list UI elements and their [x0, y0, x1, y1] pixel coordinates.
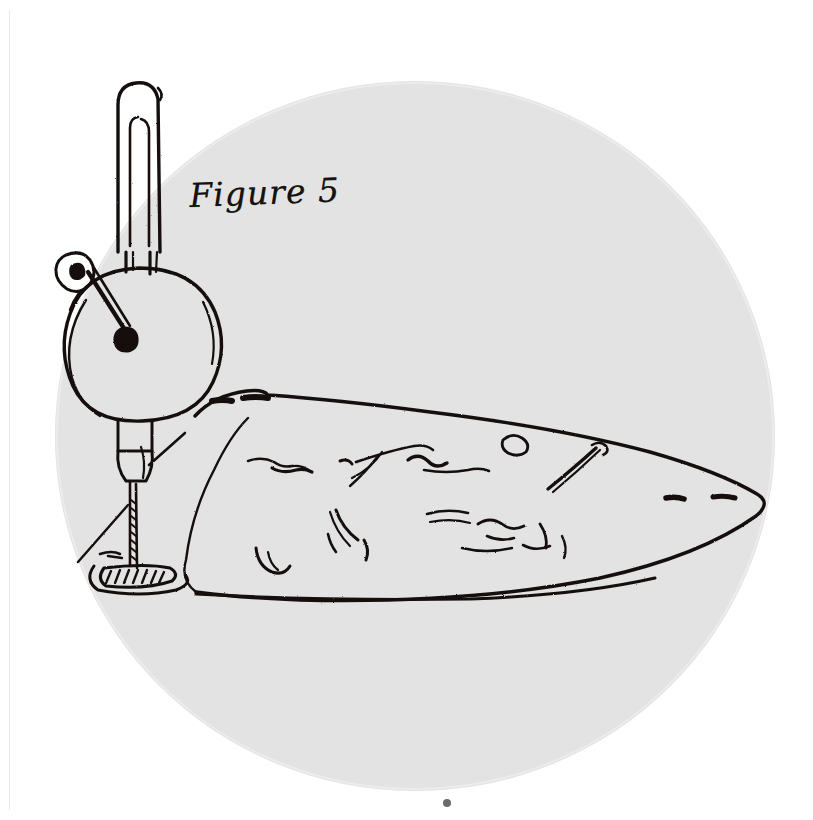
- sketch-page: Figure 5: [0, 0, 813, 820]
- figure-illustration: [0, 0, 813, 820]
- plate-circle: [55, 81, 775, 791]
- ink-dot: [443, 799, 451, 807]
